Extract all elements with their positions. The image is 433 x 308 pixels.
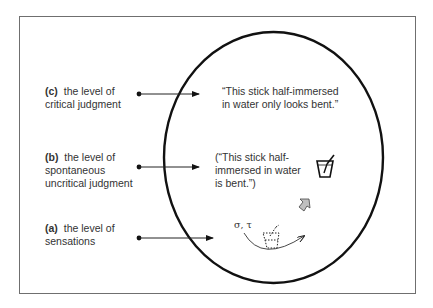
dotted-glass-icon — [263, 225, 279, 248]
sensation-symbols: σ, τ — [234, 219, 252, 230]
label-level-c: (c) the level of critical judgment — [45, 85, 121, 111]
statement-line: is bent.”) — [215, 177, 301, 190]
upward-arrow-icon — [299, 199, 310, 211]
label-line: critical judgment — [45, 98, 121, 111]
glass-with-stick-icon — [317, 155, 334, 177]
statement-line: immersed in water — [215, 164, 301, 177]
sensation-curve-arrow — [244, 233, 304, 249]
label-level-b: (b) the level of spontaneous uncritical … — [45, 151, 133, 190]
label-key: (c) — [45, 85, 58, 97]
statement-uncritical: (“This stick half- immersed in water is … — [215, 151, 301, 190]
statement-line: (“This stick half- — [215, 151, 301, 164]
label-line: spontaneous — [45, 164, 133, 177]
arrow-level-b — [137, 165, 199, 170]
label-key: (b) — [45, 151, 58, 163]
arrow-level-a — [137, 236, 213, 241]
label-line: sensations — [45, 235, 115, 248]
label-level-a: (a) the level of sensations — [45, 222, 115, 248]
label-line: the level of — [64, 151, 115, 163]
statement-critical: “This stick half-immersed in water only … — [222, 85, 339, 111]
label-line: the level of — [64, 85, 115, 97]
statement-line: in water only looks bent.” — [222, 98, 339, 111]
label-line: the level of — [64, 222, 115, 234]
label-line: uncritical judgment — [45, 177, 133, 190]
statement-line: “This stick half-immersed — [222, 85, 339, 98]
arrow-level-c — [137, 92, 199, 97]
label-key: (a) — [45, 222, 58, 234]
